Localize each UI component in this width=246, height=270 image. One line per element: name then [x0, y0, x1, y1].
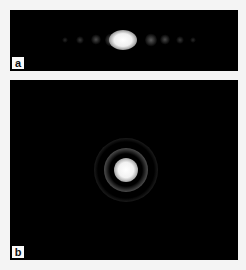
- side-lobe: [160, 34, 170, 45]
- side-lobe: [91, 34, 101, 45]
- panel-label-a: a: [12, 57, 24, 69]
- side-lobe: [62, 37, 68, 43]
- side-lobe: [76, 36, 84, 44]
- side-lobe: [176, 36, 184, 44]
- side-lobe: [145, 33, 157, 47]
- panel-label-b: b: [12, 246, 24, 258]
- diffraction-panel-b: b: [10, 80, 238, 260]
- diffraction-panel-a: a: [10, 10, 238, 71]
- airy-central-disk: [114, 158, 138, 182]
- central-maximum: [109, 30, 137, 50]
- side-lobe: [190, 37, 196, 43]
